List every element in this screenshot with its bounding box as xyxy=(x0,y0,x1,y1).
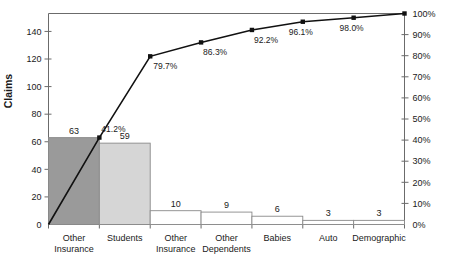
cumulative-marker xyxy=(301,20,305,24)
y-axis-title: Claims xyxy=(2,74,14,109)
y-axis-tick-label: 60 xyxy=(31,137,41,147)
cumulative-marker xyxy=(351,16,355,20)
chart-canvas: 0204060801001201400%10%20%30%40%50%60%70… xyxy=(0,0,455,266)
bar-value-label: 3 xyxy=(377,208,382,218)
category-label: Other xyxy=(63,233,86,243)
cumulative-marker xyxy=(250,28,254,32)
y-axis-tick-label: 20 xyxy=(31,192,41,202)
cumulative-percent-label: 79.7% xyxy=(153,61,178,71)
cumulative-marker xyxy=(199,40,203,44)
y2-axis-tick-label: 70% xyxy=(413,72,431,82)
y2-axis-tick-label: 20% xyxy=(413,178,431,188)
cumulative-percent-label: 86.3% xyxy=(203,47,228,57)
bar-value-label: 63 xyxy=(69,126,79,136)
category-label: Other xyxy=(164,233,187,243)
category-label-line2: Insurance xyxy=(156,244,196,254)
bar xyxy=(303,220,354,224)
bar xyxy=(354,220,405,224)
y2-axis-tick-label: 30% xyxy=(413,156,431,166)
bar xyxy=(150,211,201,225)
y2-axis-tick-label: 80% xyxy=(413,51,431,61)
cumulative-marker xyxy=(97,135,101,139)
y2-axis-tick-label: 100% xyxy=(413,9,436,19)
cumulative-percent-label: 41.2% xyxy=(101,124,126,134)
y-axis-tick-label: 140 xyxy=(26,27,41,37)
cumulative-percent-label: 92.2% xyxy=(254,35,279,45)
y-axis-tick-label: 40 xyxy=(31,165,41,175)
y2-axis-tick-label: 10% xyxy=(413,199,431,209)
category-label-line2: Dependents xyxy=(202,244,251,254)
category-label-line2: Insurance xyxy=(54,244,94,254)
y-axis-tick-label: 120 xyxy=(26,54,41,64)
cumulative-marker xyxy=(402,11,406,15)
bars-layer xyxy=(49,138,405,225)
category-label: Babies xyxy=(264,233,292,243)
cumulative-marker xyxy=(148,54,152,58)
y-axis-tick-label: 0 xyxy=(36,220,41,230)
bar xyxy=(99,143,150,224)
y2-axis-tick-label: 60% xyxy=(413,93,431,103)
bar-value-label: 6 xyxy=(275,204,280,214)
category-label: Auto xyxy=(319,233,338,243)
y2-axis-tick-label: 50% xyxy=(413,114,431,124)
bar xyxy=(201,212,252,224)
bar-value-label: 9 xyxy=(224,200,229,210)
y2-axis-tick-label: 40% xyxy=(413,135,431,145)
y-axis-tick-label: 80 xyxy=(31,109,41,119)
category-label: Students xyxy=(107,233,143,243)
y2-axis-tick-label: 90% xyxy=(413,30,431,40)
category-label: Demographic xyxy=(352,233,406,243)
bar xyxy=(252,216,303,224)
bar-value-label: 3 xyxy=(326,208,331,218)
pareto-chart: 0204060801001201400%10%20%30%40%50%60%70… xyxy=(0,0,455,266)
category-label: Other xyxy=(215,233,238,243)
y2-axis-tick-label: 0% xyxy=(413,220,426,230)
cumulative-percent-label: 98.0% xyxy=(340,23,365,33)
y-axis-tick-label: 100 xyxy=(26,82,41,92)
bar-value-label: 10 xyxy=(171,199,181,209)
cumulative-percent-label: 96.1% xyxy=(289,27,314,37)
